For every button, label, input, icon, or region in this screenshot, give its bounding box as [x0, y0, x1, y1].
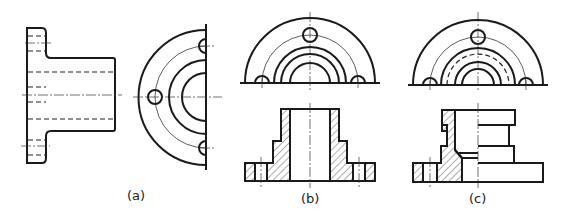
label-view-a: (a) [127, 188, 145, 203]
label-view-c: (c) [469, 191, 486, 206]
view-b-section [245, 103, 375, 188]
view-a-front [21, 28, 122, 163]
view-b-top [240, 12, 380, 90]
view-a-side [133, 24, 222, 170]
label-view-b: (b) [301, 191, 319, 206]
technical-drawing [0, 0, 561, 218]
view-c-section [413, 103, 543, 188]
view-c-top [408, 12, 548, 92]
